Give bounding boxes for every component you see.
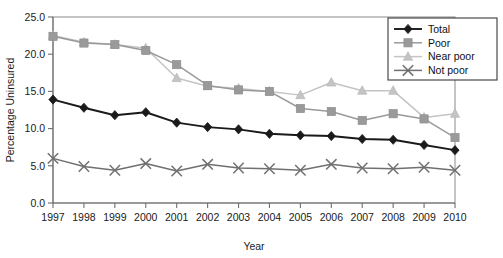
y-tick-label: 5.0 [30,160,45,172]
data-point [80,103,88,112]
data-point [142,108,150,117]
data-point [358,134,366,143]
y-tick-label: 10.0 [25,122,46,134]
y-tick-label: 15.0 [25,85,46,97]
x-tick-label: 2005 [289,211,313,223]
x-axis-ticks: 1997199819992000200120022003200420052006… [41,203,467,223]
data-point [204,123,212,132]
y-tick-label: 25.0 [25,11,46,23]
data-point [142,46,150,54]
data-point [204,81,212,89]
x-tick-label: 2001 [165,211,189,223]
data-point [80,39,88,47]
data-point [358,116,366,124]
data-point [173,61,181,69]
x-tick-label: 2000 [134,211,158,223]
legend-marker-square-icon [404,39,412,47]
series-not-poor [48,153,460,176]
x-tick-label: 2003 [227,211,251,223]
data-point [450,109,459,118]
data-point [234,125,242,134]
x-tick-label: 2002 [196,211,220,223]
x-tick-label: 2007 [351,211,375,223]
data-point [111,40,119,48]
data-point [49,32,57,40]
data-point [451,146,459,155]
x-tick-label: 2006 [320,211,344,223]
x-tick-label: 2009 [412,211,436,223]
y-axis-title: Percentage Uninsured [4,58,16,163]
x-axis-title: Year [243,240,265,252]
data-point [296,131,304,140]
data-point [451,133,459,141]
x-tick-label: 1999 [103,211,127,223]
legend-label: Not poor [428,64,469,76]
legend-label: Poor [428,37,451,49]
x-tick-label: 1997 [41,211,65,223]
legend-label: Near poor [428,50,475,62]
line-chart: 0.05.010.015.020.025.0 19971998199920002… [0,0,503,258]
data-point [420,115,428,123]
series-total [49,95,459,155]
data-point [389,135,397,144]
x-tick-label: 2004 [258,211,282,223]
data-point [296,104,304,112]
y-tick-label: 20.0 [25,48,46,60]
data-point [111,111,119,120]
data-point [389,110,397,118]
legend-label: Total [428,23,450,35]
data-point [327,107,335,115]
chart-legend: TotalPoorNear poorNot poor [388,18,497,80]
data-point [327,131,335,140]
x-tick-label: 2008 [381,211,405,223]
data-point [327,78,336,87]
data-point [49,95,57,104]
data-point [420,140,428,149]
y-tick-label: 0.0 [30,197,45,209]
data-point [173,118,181,127]
x-tick-label: 1998 [72,211,96,223]
data-point [265,87,273,95]
x-tick-label: 2010 [443,211,467,223]
chart-container: 0.05.010.015.020.025.0 19971998199920002… [0,0,503,258]
data-point [234,86,242,94]
data-point [265,129,273,138]
